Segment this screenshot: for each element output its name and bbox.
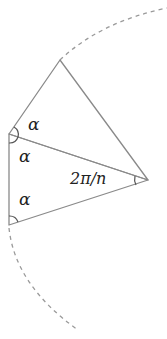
label-alpha-lower: α xyxy=(19,189,31,209)
angle-arc-central xyxy=(135,176,136,185)
angle-arc-alpha-3 xyxy=(9,216,18,222)
label-central-angle: 2π/n xyxy=(69,169,106,188)
dashed-circle-arc-bottom xyxy=(9,228,78,330)
dashed-circle-arc-top xyxy=(60,8,167,60)
geometry-diagram: α α α 2π/n xyxy=(0,0,167,339)
label-alpha-middle: α xyxy=(19,146,31,166)
angle-arc-alpha-2 xyxy=(9,137,18,143)
label-alpha-upper: α xyxy=(28,114,40,134)
